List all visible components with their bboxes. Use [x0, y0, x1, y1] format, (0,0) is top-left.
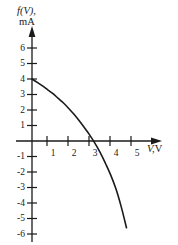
y-tick-label-neg3: -3: [11, 182, 25, 192]
x-axis-label: V,V: [147, 143, 162, 154]
y-tick-label-4: 4: [11, 74, 25, 84]
x-tick-label-4: 4: [111, 148, 121, 158]
x-tick-label-3: 3: [90, 148, 100, 158]
y-axis-label: f(V), mA: [17, 5, 36, 27]
y-tick-label-neg4: -4: [11, 198, 25, 208]
x-axis-label-units: V: [155, 143, 163, 154]
y-tick-label-5: 5: [11, 58, 25, 68]
y-tick-label-neg2: -2: [11, 167, 25, 177]
y-tick-label-6: 6: [11, 43, 25, 53]
y-tick-label-1: 1: [11, 120, 25, 130]
chart-canvas: [0, 0, 178, 245]
x-tick-label-5: 5: [132, 148, 142, 158]
y-tick-label-neg5: -5: [11, 213, 25, 223]
y-tick-label-2: 2: [11, 105, 25, 115]
y-tick-label-neg1: -1: [11, 151, 25, 161]
chart-figure: f(V), mA V,V 654321-1-2-3-4-5-6 12345: [0, 0, 178, 245]
y-axis-arrowhead: [29, 26, 36, 37]
y-tick-label-neg6: -6: [11, 229, 25, 239]
y-tick-label-3: 3: [11, 89, 25, 99]
x-tick-label-2: 2: [69, 148, 79, 158]
y-axis-label-units: mA: [17, 16, 36, 27]
y-axis-label-variable: f(V),: [17, 5, 36, 16]
x-tick-label-1: 1: [48, 148, 58, 158]
x-axis-label-variable: V,: [147, 143, 155, 154]
